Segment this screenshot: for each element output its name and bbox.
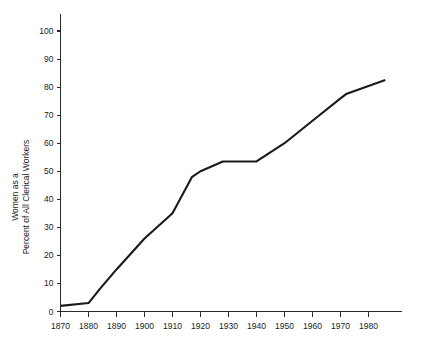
line-chart-svg: 0102030405060708090100 18701880189019001… xyxy=(0,0,424,345)
x-tick-label: 1880 xyxy=(79,321,98,331)
x-tick-label: 1900 xyxy=(135,321,154,331)
y-tick-label: 20 xyxy=(44,250,54,260)
y-tick-label: 0 xyxy=(49,307,54,317)
x-tick-label: 1920 xyxy=(191,321,210,331)
x-tick-label: 1870 xyxy=(51,321,70,331)
chart-figure: 0102030405060708090100 18701880189019001… xyxy=(0,0,424,345)
y-tick-label: 50 xyxy=(44,166,54,176)
x-tick-label: 1940 xyxy=(247,321,266,331)
x-tick-label: 1890 xyxy=(107,321,126,331)
y-tick-label: 40 xyxy=(44,194,54,204)
y-tick-label: 80 xyxy=(44,82,54,92)
y-tick-label: 60 xyxy=(44,138,54,148)
x-tick-label: 1980 xyxy=(359,321,378,331)
y-tick-label: 10 xyxy=(44,278,54,288)
y-tick-label: 30 xyxy=(44,222,54,232)
y-axis-title-line-2: Percent of All Clerical Workers xyxy=(21,140,31,255)
y-tick-label: 70 xyxy=(44,110,54,120)
x-tick-label: 1950 xyxy=(275,321,294,331)
chart-background xyxy=(0,0,424,345)
y-tick-label: 100 xyxy=(39,26,53,36)
y-tick-label: 90 xyxy=(44,54,54,64)
x-tick-label: 1910 xyxy=(163,321,182,331)
y-axis-title-line-1: Women as a xyxy=(10,173,20,221)
x-tick-label: 1960 xyxy=(303,321,322,331)
x-tick-label: 1930 xyxy=(219,321,238,331)
x-tick-label: 1970 xyxy=(331,321,350,331)
